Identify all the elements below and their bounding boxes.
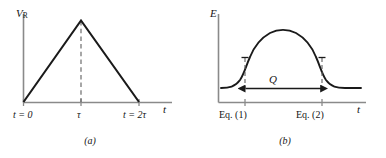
figure-panel-a: VR t t = 0 τ t = 2τ (a) [0,0,193,158]
energy-profile-curve [221,30,361,88]
panel-a-plot [0,0,193,158]
x-tick-label-2tau: t = 2τ [123,110,146,120]
x-tick-label-eq1: Eq. (1) [219,110,247,120]
x-axis-label-b: t [357,104,360,115]
panel-caption-b: (b) [255,136,315,146]
x-tick-label-t0: t = 0 [13,110,33,120]
y-axis-label-b: E [210,8,217,19]
figure-panel-b: E t Eq. (1) Eq. (2) Q (b) [193,0,386,158]
y-axis-label-a: VR [16,8,28,20]
figure-root: VR t t = 0 τ t = 2τ (a) [0,0,386,158]
x-tick-label-tau: τ [77,110,81,120]
x-tick-label-eq2: Eq. (2) [296,110,324,120]
x-axis-label-a: t [163,104,166,115]
panel-caption-a: (a) [60,136,120,146]
q-annotation-label: Q [269,74,277,85]
